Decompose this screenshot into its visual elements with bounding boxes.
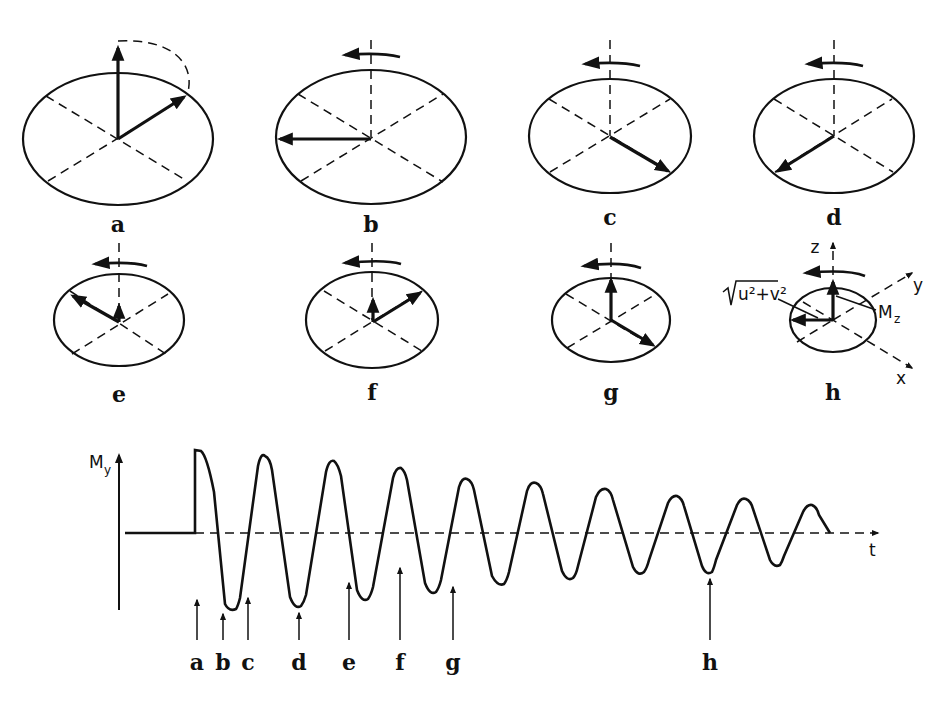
panel-label: g	[603, 379, 618, 405]
panel-a: a	[23, 41, 213, 237]
magnetization-vector-icon	[778, 136, 834, 171]
dashed-axis	[797, 320, 833, 342]
marker-label-d: d	[291, 649, 306, 675]
transverse-vector-icon	[73, 296, 119, 322]
rotation-arrow-icon	[95, 263, 147, 266]
axis-label-x: x	[896, 368, 906, 388]
rotation-arrow-icon	[808, 63, 863, 66]
panel-label: d	[826, 204, 841, 230]
rotation-arrow-icon	[345, 54, 400, 57]
panel-label: b	[363, 211, 378, 237]
svg-text:y: y	[104, 463, 111, 477]
panel-h: z y x u²+v² M z h	[723, 237, 923, 405]
panel-e: e	[54, 243, 184, 407]
marker-label-e: e	[342, 649, 356, 675]
panel-d: d	[754, 40, 914, 230]
panel-label: h	[825, 379, 841, 405]
svg-text:z: z	[894, 312, 900, 326]
magnetization-vector-icon	[610, 137, 668, 171]
svg-text:M: M	[89, 452, 104, 472]
svg-text:M: M	[878, 302, 893, 322]
panel-g: g	[552, 243, 670, 405]
marker-label-f: f	[395, 649, 406, 675]
rotation-path-dashed	[118, 41, 189, 92]
transverse-vector-icon	[373, 293, 420, 322]
y-axis-label: M y	[89, 452, 111, 477]
rotation-arrow-icon	[585, 63, 640, 66]
transverse-magnitude-label: u²+v²	[723, 281, 787, 305]
transverse-vector-icon	[611, 320, 653, 345]
svg-text:u²+v²: u²+v²	[738, 284, 787, 304]
axis-label-z: z	[811, 237, 820, 257]
marker-label-c: c	[241, 649, 254, 675]
rotation-arrow-icon	[584, 264, 641, 268]
axis-label-y: y	[913, 275, 923, 295]
time-markers: a b c d e f g h	[190, 568, 718, 675]
panel-label: c	[603, 204, 616, 230]
marker-label-a: a	[190, 649, 204, 675]
x-axis-label: t	[869, 540, 876, 560]
longitudinal-label: M z	[878, 302, 900, 326]
precession-diagram: a b c d e	[0, 0, 943, 709]
decaying-oscillation-curve	[125, 450, 830, 610]
panel-c: c	[529, 40, 691, 230]
panel-label: a	[111, 211, 125, 237]
rotation-arrow-icon	[806, 272, 865, 276]
panel-b: b	[276, 40, 466, 237]
fid-signal-plot: M y t a b c d e f g h	[89, 450, 878, 675]
panel-f: f	[306, 243, 438, 405]
rotation-arrow-icon	[345, 261, 401, 264]
marker-label-g: g	[445, 649, 460, 675]
marker-label-h: h	[702, 649, 718, 675]
marker-label-b: b	[215, 649, 230, 675]
rotated-vector-icon	[118, 97, 184, 139]
panel-label: f	[367, 379, 378, 405]
panel-label: e	[112, 381, 126, 407]
